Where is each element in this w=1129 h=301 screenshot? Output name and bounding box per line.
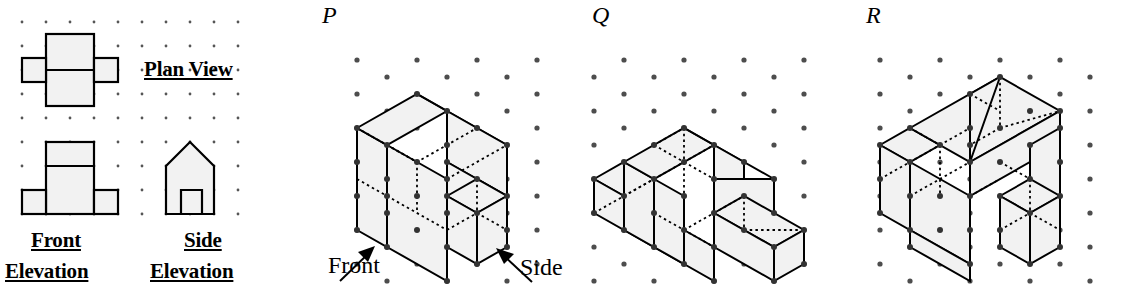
front-arrow-label: Front (328, 252, 380, 279)
isometric-solid-r (877, 74, 1063, 281)
side-elevation-caption-line2: Elevation (150, 259, 233, 284)
plan-view-caption: Plan View (144, 57, 233, 82)
front-elevation-caption-line2: Elevation (5, 259, 88, 284)
side-elevation-drawing (166, 142, 214, 214)
isometric-solid-q (591, 125, 807, 284)
side-arrow-label: Side (520, 254, 563, 281)
orthographic-projections-panel (0, 0, 300, 301)
isometric-option-label-q: Q (592, 2, 609, 29)
front-elevation-caption-line1: Front (31, 228, 81, 253)
isometric-option-r-panel (850, 0, 1129, 301)
plan-view-drawing (22, 34, 118, 106)
isometric-option-label-p: P (322, 2, 337, 29)
front-elevation-drawing (22, 142, 118, 214)
side-elevation-caption-line1: Side (184, 228, 222, 253)
isometric-option-label-r: R (866, 2, 881, 29)
isometric-option-q-panel (572, 0, 852, 301)
